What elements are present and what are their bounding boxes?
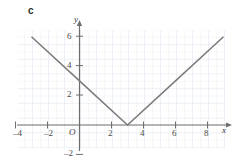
origin-label: O [69,127,76,137]
figure-container: c [0,0,237,163]
y-tick-label-2: 2 [67,89,72,99]
x-tick-label-6: 6 [172,128,177,138]
x-tick-label--4: –4 [13,128,22,138]
y-tick-label--2: –2 [64,148,73,158]
x-tick-label--2: –2 [44,128,53,138]
x-tick-label-8: 8 [204,128,209,138]
x-tick-label-2: 2 [108,128,113,138]
graph-plot [0,0,237,163]
x-tick-label-4: 4 [140,128,145,138]
y-tick-label-4: 4 [67,60,72,70]
y-tick-label-6: 6 [67,31,72,41]
y-axis-label: y [74,14,78,24]
x-axis-label: x [222,125,226,135]
